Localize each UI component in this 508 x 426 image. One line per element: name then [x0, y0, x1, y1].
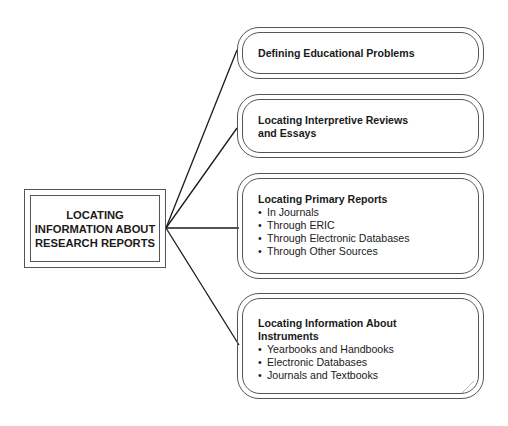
branch-node-defining-problems: Defining Educational Problems [237, 27, 484, 79]
central-line-1: LOCATING [35, 208, 156, 222]
bullet-item: In Journals [258, 206, 473, 219]
connector-branch-4 [166, 228, 239, 345]
branch-title-line-1: Locating Information About [258, 317, 473, 330]
branch-title: Locating Primary Reports [258, 193, 473, 206]
branch-title-line-2: Instruments [258, 330, 473, 343]
central-node-label: LOCATING INFORMATION ABOUT RESEARCH REPO… [30, 195, 160, 262]
bullet-list: In Journals Through ERIC Through Electro… [258, 206, 473, 258]
branch-node-primary-reports: Locating Primary Reports In Journals Thr… [237, 173, 484, 279]
central-line-3: RESEARCH REPORTS [35, 236, 156, 250]
connector-branch-2 [166, 128, 237, 228]
branch-title: Defining Educational Problems [258, 47, 473, 60]
central-line-2: INFORMATION ABOUT [35, 222, 156, 236]
branch-node-interpretive-reviews: Locating Interpretive Reviews and Essays [237, 94, 484, 158]
bullet-item: Through Electronic Databases [258, 232, 473, 245]
branch-title-line-1: Locating Interpretive Reviews [258, 114, 473, 127]
branch-title-line-2: and Essays [258, 127, 473, 140]
bullet-list: Yearbooks and Handbooks Electronic Datab… [258, 343, 473, 382]
bullet-item: Yearbooks and Handbooks [258, 343, 473, 356]
connector-branch-1 [166, 50, 237, 228]
branch-node-instruments: Locating Information About Instruments Y… [237, 293, 484, 399]
central-node: LOCATING INFORMATION ABOUT RESEARCH REPO… [24, 189, 166, 268]
bullet-item: Journals and Textbooks [258, 369, 473, 382]
bullet-item: Electronic Databases [258, 356, 473, 369]
bullet-item: Through Other Sources [258, 245, 473, 258]
bullet-item: Through ERIC [258, 219, 473, 232]
